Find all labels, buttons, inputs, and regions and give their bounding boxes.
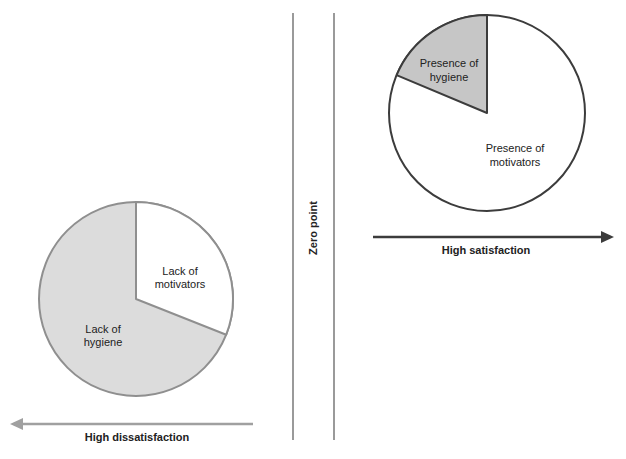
zero-point-label: Zero point (307, 201, 319, 255)
presence-of-motivators-label-line1: Presence of (486, 142, 546, 154)
satisfaction-pie: Presence of hygiene Presence of motivato… (389, 15, 585, 211)
lack-of-hygiene-label-line2: hygiene (84, 336, 123, 348)
presence-of-motivators-label-line2: motivators (490, 156, 541, 168)
satisfaction-arrow (373, 231, 614, 243)
presence-of-hygiene-label-line2: hygiene (430, 71, 469, 83)
presence-of-hygiene-label-line1: Presence of (420, 57, 480, 69)
arrow-right-icon (601, 231, 614, 243)
dissatisfaction-arrow (10, 418, 253, 430)
arrow-left-icon (10, 418, 23, 430)
high-dissatisfaction-label: High dissatisfaction (85, 431, 190, 443)
dissatisfaction-pie: Lack of motivators Lack of hygiene (39, 202, 233, 396)
lack-of-motivators-label-line2: motivators (155, 278, 206, 290)
high-satisfaction-label: High satisfaction (442, 244, 531, 256)
lack-of-motivators-label-line1: Lack of (162, 265, 198, 277)
lack-of-hygiene-label-line1: Lack of (85, 323, 121, 335)
diagram-canvas: Zero point Lack of motivators Lack of hy… (0, 0, 626, 459)
